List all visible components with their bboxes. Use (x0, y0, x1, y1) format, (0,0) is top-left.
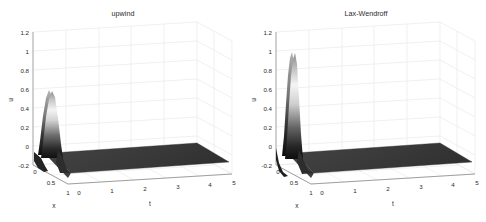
t-tick-label: 5 (475, 179, 479, 186)
z-tick-label: -0.2 (261, 162, 272, 169)
z-tick-label: 1 (26, 48, 30, 55)
z-tick-label: 0.6 (263, 86, 272, 93)
surface-plateau (295, 143, 472, 173)
surface-plot-svg-upwind: upwind 1.2 1 0.8 0.6 0.4 0.2 0 -0.2 0 0.… (0, 0, 243, 222)
x-tick-label: 0.5 (290, 179, 299, 186)
t-tick-label: 3 (419, 183, 423, 190)
z-tick-label: 0.8 (20, 67, 29, 74)
z-tick-label: 1.2 (20, 29, 29, 36)
z-tick-label: 0.4 (263, 105, 272, 112)
t-tick-label: 2 (386, 185, 390, 192)
x-axis-label: x (52, 202, 56, 209)
z-tick-label: -0.2 (18, 162, 29, 169)
z-tick-label: 0.8 (263, 67, 272, 74)
t-axis-label: t (149, 200, 151, 207)
t-tick-label: 2 (143, 185, 147, 192)
z-tick-label: 1.2 (263, 29, 272, 36)
z-tick-label: 0.4 (20, 105, 29, 112)
plot-title: upwind (112, 9, 135, 18)
surface-plot-panel-lax-wendroff: Lax-Wendroff 1.2 1 0.8 0.6 0.4 0.2 0 -0.… (243, 0, 486, 222)
x-axis-label: x (295, 202, 299, 209)
x-tick-label: 1 (66, 189, 70, 196)
t-tick-label: 4 (208, 181, 212, 188)
x-tick-label: 0.5 (47, 179, 56, 186)
t-axis-label: t (392, 200, 394, 207)
t-tick-label: 1 (353, 187, 357, 194)
x-tick-label: 0 (33, 168, 37, 175)
z-tick-label: 0 (26, 143, 30, 150)
z-axis-label: u (250, 98, 257, 102)
surface-plot-panel-upwind: upwind 1.2 1 0.8 0.6 0.4 0.2 0 -0.2 0 0.… (0, 0, 243, 222)
t-tick-label: 4 (451, 181, 455, 188)
surface-plateau (52, 143, 229, 173)
x-tick-label: 1 (309, 189, 313, 196)
x-tick-label: 0 (276, 168, 280, 175)
t-tick-label: 0 (320, 189, 324, 196)
t-tick-label: 1 (110, 187, 114, 194)
z-tick-label: 0 (269, 143, 273, 150)
t-tick-label: 3 (176, 183, 180, 190)
z-tick-label: 1 (269, 48, 273, 55)
z-tick-label: 0.6 (20, 86, 29, 93)
z-tick-label: 0.2 (263, 124, 272, 131)
z-axis-label: u (7, 98, 14, 102)
t-tick-label: 0 (77, 189, 81, 196)
plot-title: Lax-Wendroff (345, 9, 388, 18)
z-tick-label: 0.2 (20, 124, 29, 131)
figure-root: upwind 1.2 1 0.8 0.6 0.4 0.2 0 -0.2 0 0.… (0, 0, 486, 222)
t-tick-label: 5 (232, 179, 236, 186)
surface-plot-svg-lax-wendroff: Lax-Wendroff 1.2 1 0.8 0.6 0.4 0.2 0 -0.… (243, 0, 486, 222)
